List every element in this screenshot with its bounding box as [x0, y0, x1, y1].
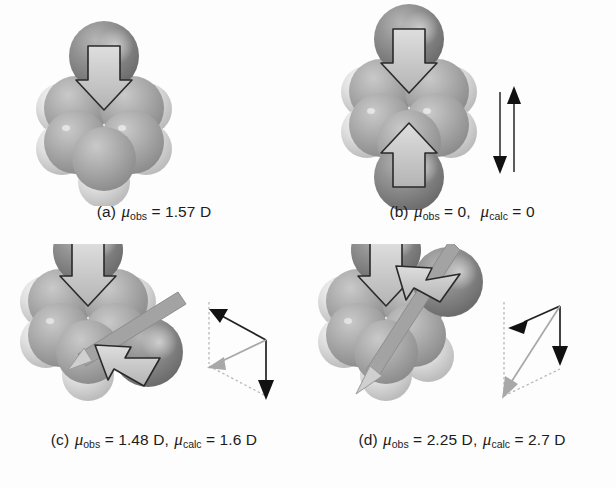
- vector-resultant-d: [502, 306, 560, 399]
- caption-c-mu-obs-sub: obs: [83, 438, 100, 450]
- panel-d-ortho-dichlorobenzene: (d) μobs = 2.25 D, μcalc = 2.7 D: [308, 244, 616, 488]
- caption-c-label: (c): [51, 431, 69, 448]
- caption-b-mu-obs-symbol: μ: [413, 202, 423, 221]
- caption-d-mu-calc-symbol: μ: [482, 430, 492, 449]
- caption-b-label: (b): [389, 203, 408, 220]
- vector-diagram-c: [0, 244, 308, 488]
- caption-a: (a) μobs = 1.57 D: [0, 202, 308, 222]
- caption-d-mu-calc-value: = 2.7 D: [514, 431, 565, 448]
- caption-d-mu-obs-sub: obs: [392, 438, 409, 450]
- caption-b-mu-obs-sub: obs: [423, 210, 440, 222]
- vector-component-down-c: [258, 340, 274, 400]
- panel-b-para-dichlorobenzene: (b) μobs = 0, μcalc = 0: [308, 0, 616, 244]
- vector-diagram-d: [308, 244, 616, 488]
- caption-c-mu-obs-value: = 1.48 D,: [105, 431, 169, 448]
- caption-b-mu-calc-sub: calc: [489, 210, 508, 222]
- caption-c-mu-obs-symbol: μ: [74, 430, 84, 449]
- caption-c: (c) μobs = 1.48 D, μcalc = 1.6 D: [0, 430, 308, 450]
- caption-d-label: (d): [358, 431, 377, 448]
- caption-d-mu-obs-value: = 2.25 D,: [413, 431, 477, 448]
- caption-a-label: (a): [97, 203, 116, 220]
- caption-a-mu-value: = 1.57 D: [151, 203, 211, 220]
- panel-a-chlorobenzene: (a) μobs = 1.57 D: [0, 6, 308, 244]
- panel-c-meta-dichlorobenzene: (c) μobs = 1.48 D, μcalc = 1.6 D: [0, 244, 308, 488]
- caption-b-mu-calc-symbol: μ: [480, 202, 490, 221]
- dipole-moment-figure: (a) μobs = 1.57 D: [0, 0, 616, 488]
- caption-c-mu-calc-sub: calc: [183, 438, 202, 450]
- caption-d: (d) μobs = 2.25 D, μcalc = 2.7 D: [308, 430, 616, 450]
- caption-c-mu-calc-symbol: μ: [173, 430, 183, 449]
- vector-down-b: [493, 92, 507, 174]
- caption-a-mu-sub: obs: [130, 210, 147, 222]
- caption-d-mu-obs-symbol: μ: [382, 430, 392, 449]
- vector-up-b: [507, 86, 521, 172]
- caption-d-mu-calc-sub: calc: [491, 438, 510, 450]
- caption-a-mu-symbol: μ: [120, 202, 130, 221]
- caption-b-mu-calc-value: = 0: [512, 203, 534, 220]
- caption-b: (b) μobs = 0, μcalc = 0: [308, 202, 616, 222]
- vector-resultant-c: [207, 340, 266, 370]
- caption-c-mu-calc-value: = 1.6 D: [206, 431, 257, 448]
- vector-component-upleft-d: [508, 306, 560, 334]
- caption-b-mu-obs-value: = 0,: [444, 203, 471, 220]
- vector-component-upleft-c: [209, 309, 266, 340]
